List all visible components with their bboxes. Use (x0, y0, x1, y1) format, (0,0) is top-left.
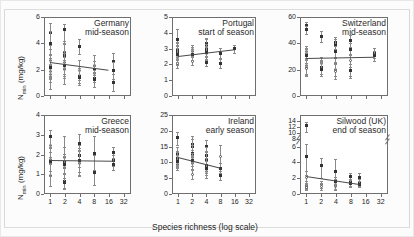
x-tick (65, 194, 66, 197)
error-bar-cap (349, 78, 352, 79)
x-tick (306, 96, 307, 99)
error-bar-cap (63, 44, 66, 45)
error-bar (50, 49, 51, 89)
y-tick (41, 43, 44, 44)
error-bar-cap (112, 147, 115, 148)
data-point-filled (305, 28, 308, 31)
y-tick (169, 131, 172, 132)
data-point-filled (176, 38, 179, 41)
error-bar-cap (205, 57, 208, 58)
y-tick-label: 4 (274, 158, 296, 165)
error-bar-cap (305, 122, 308, 123)
x-tick (94, 96, 95, 99)
error-bar-cap (93, 185, 96, 186)
y-tick (41, 135, 44, 136)
error-bar-cap (176, 167, 179, 168)
x-tick (109, 194, 110, 197)
x-tick (178, 96, 179, 99)
error-bar-cap (334, 39, 337, 40)
y-tick (169, 147, 172, 148)
error-bar-cap (93, 55, 96, 56)
y-tick-label: 0 (274, 92, 296, 99)
error-bar-cap (176, 155, 179, 156)
error-bar-cap (49, 176, 52, 177)
error-bar-cap (78, 60, 81, 61)
error-bar-cap (320, 42, 323, 43)
data-point-filled (320, 68, 323, 71)
error-bar-cap (219, 163, 222, 164)
error-bar-cap (191, 179, 194, 180)
y-tick-label: 5 (146, 13, 168, 20)
error-bar-cap (358, 187, 361, 188)
x-tick-label: 1 (298, 198, 314, 205)
error-bar-cap (205, 175, 208, 176)
error-bar-cap (176, 42, 179, 43)
x-tick (178, 194, 179, 197)
data-point-open (305, 186, 308, 189)
y-tick-label: 20 (274, 66, 296, 73)
error-bar-cap (191, 153, 194, 154)
panel-title-line2: start of season (172, 28, 254, 37)
error-bar-cap (191, 139, 194, 140)
y-tick-label: 0 (274, 190, 296, 197)
y-tick (297, 121, 300, 122)
panel-title-portugal: Portugalstart of season (172, 19, 254, 37)
x-tick (109, 96, 110, 99)
x-tick (249, 194, 250, 197)
panel-title-silwood: Silwood (UK)end of season (300, 117, 386, 135)
error-bar-cap (63, 41, 66, 42)
x-tick-label: 32 (241, 198, 257, 205)
error-bar-cap (191, 169, 194, 170)
data-point-filled (349, 175, 352, 178)
y-tick-label: 6 (274, 143, 296, 150)
x-tick (381, 194, 382, 197)
data-point-filled (205, 167, 208, 170)
error-bar-cap (176, 62, 179, 63)
error-bar-cap (219, 58, 222, 59)
data-point-filled (49, 135, 52, 138)
error-bar-cap (305, 26, 308, 27)
error-bar-cap (93, 87, 96, 88)
y-tick-label: 0 (146, 92, 168, 99)
y-tick-label: 4 (18, 111, 40, 118)
x-tick (306, 194, 307, 197)
y-tick (41, 155, 44, 156)
x-tick (336, 96, 337, 99)
error-bar-cap (63, 189, 66, 190)
y-tick (169, 115, 172, 116)
data-point-filled (219, 52, 222, 55)
scan-edge-left (4, 10, 5, 228)
error-bar-cap (349, 43, 352, 44)
y-tick-label: 10 (146, 158, 168, 165)
error-bar-cap (233, 45, 236, 46)
data-point-filled (320, 164, 323, 167)
error-bar-cap (219, 145, 222, 146)
error-bar-cap (305, 144, 308, 145)
error-bar-cap (334, 177, 337, 178)
error-bar-cap (205, 140, 208, 141)
data-point-filled (78, 76, 81, 79)
data-point-open (320, 185, 323, 188)
error-bar-cap (305, 49, 308, 50)
error-bar-cap (78, 176, 81, 177)
y-tick (297, 43, 300, 44)
y-tick (297, 127, 300, 128)
y-tick-label: 25 (146, 111, 168, 118)
error-bar-cap (176, 147, 179, 148)
error-bar-cap (219, 48, 222, 49)
error-bar-cap (334, 186, 337, 187)
x-tick (351, 194, 352, 197)
error-bar-cap (334, 46, 337, 47)
error-bar-cap (233, 53, 236, 54)
x-tick-label: 32 (116, 198, 132, 205)
x-tick-label: 8 (86, 198, 102, 205)
x-tick (321, 96, 322, 99)
error-bar-cap (49, 49, 52, 50)
data-point-filled (349, 69, 352, 72)
error-bar-cap (205, 178, 208, 179)
error-bar-cap (320, 181, 323, 182)
x-tick (351, 96, 352, 99)
y-tick (169, 64, 172, 65)
data-point-filled (93, 78, 96, 81)
error-bar-cap (63, 53, 66, 54)
